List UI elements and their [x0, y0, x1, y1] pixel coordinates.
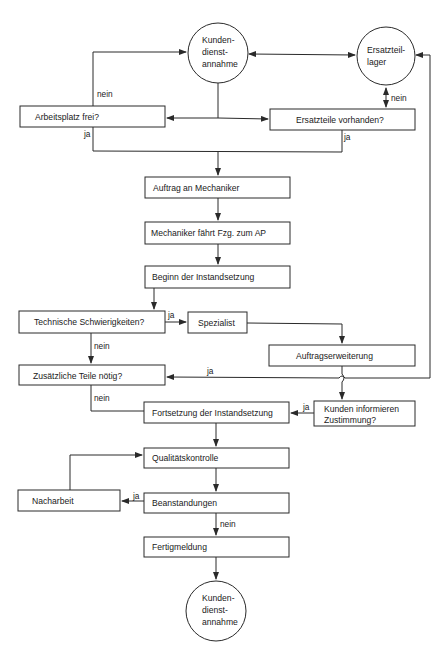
node-auftrag: Auftrag an Mechaniker — [145, 177, 290, 198]
edge-to-ersatzteile — [218, 118, 268, 119]
node-fertig: Fertigmeldung — [144, 537, 289, 557]
label-arbeitsplatz-ja: ja — [83, 129, 91, 139]
node-qualitaet: Qualitätskontrolle — [144, 448, 289, 468]
node-zusaetzlich: Zusätzliche Teile nötig? — [19, 365, 165, 385]
start-line-3: annahme — [202, 59, 238, 69]
ersatzteile-label: Ersatzteile vorhanden? — [296, 115, 384, 125]
technisch-label: Technische Schwierigkeiten? — [34, 317, 145, 327]
node-spezialist: Spezialist — [188, 312, 247, 333]
label-arbeitsplatz-nein: nein — [97, 89, 113, 99]
node-fortsetzung: Fortsetzung der Instandsetzung — [144, 402, 289, 423]
label-kunden-ja: ja — [302, 402, 310, 412]
edge-spezialist-erweiterung — [247, 323, 342, 343]
node-start: Kunden- dienst- annahme — [188, 23, 248, 83]
edge-ja-merge — [93, 127, 342, 152]
edge-zusaetzlich-ja — [167, 376, 430, 378]
beginn-label: Beginn der Instandsetzung — [152, 272, 254, 282]
node-mechaniker: Mechaniker fährt Fzg. zum AP — [145, 222, 290, 244]
node-lager: Ersatzteil- lager — [357, 27, 415, 85]
mechaniker-label: Mechaniker fährt Fzg. zum AP — [151, 228, 266, 238]
edge-return-lager — [416, 55, 430, 378]
node-beginn: Beginn der Instandsetzung — [145, 266, 290, 288]
qualitaet-label: Qualitätskontrolle — [152, 453, 219, 463]
end-line-1: Kunden- — [202, 593, 235, 603]
node-erweiterung: Auftragserweiterung — [269, 345, 415, 366]
nacharbeit-label: Nacharbeit — [32, 496, 74, 506]
node-ersatzteile: Ersatzteile vorhanden? — [270, 109, 415, 130]
node-end: Kunden- dienst- annahme — [186, 581, 246, 641]
label-zusaetzlich-ja: ja — [206, 366, 214, 376]
auftrag-label: Auftrag an Mechaniker — [153, 183, 240, 193]
label-beanstandungen-ja: ja — [132, 491, 140, 501]
end-line-3: annahme — [202, 617, 238, 627]
start-line-1: Kunden- — [202, 35, 235, 45]
node-technisch: Technische Schwierigkeiten? — [19, 311, 165, 333]
lager-line-1: Ersatzteil- — [367, 45, 405, 55]
node-arbeitsplatz: Arbeitsplatz frei? — [20, 106, 165, 127]
spezialist-label: Spezialist — [198, 318, 235, 328]
edge-nacharbeit-qualitaet — [70, 455, 142, 490]
kunden-info-line-2: Zustimmung? — [324, 415, 376, 425]
start-line-2: dienst- — [202, 47, 228, 57]
edge-erweiterung-kunden — [342, 366, 344, 399]
fortsetzung-label: Fortsetzung der Instandsetzung — [152, 408, 273, 418]
node-kunden-info: Kunden informieren Zustimmung? — [314, 401, 415, 426]
label-ersatzteile-ja: ja — [343, 132, 351, 142]
zusaetzlich-label: Zusätzliche Teile nötig? — [33, 371, 122, 381]
erweiterung-label: Auftragserweiterung — [296, 351, 373, 361]
node-nacharbeit: Nacharbeit — [18, 490, 120, 511]
arbeitsplatz-label: Arbeitsplatz frei? — [35, 112, 99, 122]
label-technisch-ja: ja — [167, 310, 175, 320]
kunden-info-line-1: Kunden informieren — [324, 404, 399, 414]
label-technisch-nein: nein — [94, 341, 110, 351]
edge-start-lager — [249, 54, 355, 55]
flowchart: Kunden- dienst- annahme Ersatzteil- lage… — [0, 0, 439, 660]
label-zusaetzlich-nein: nein — [94, 393, 110, 403]
node-beanstandungen: Beanstandungen — [144, 493, 289, 513]
label-beanstandungen-nein: nein — [220, 519, 236, 529]
beanstandungen-label: Beanstandungen — [152, 498, 217, 508]
label-lager-nein: nein — [391, 93, 407, 103]
fertig-label: Fertigmeldung — [152, 542, 207, 552]
lager-line-2: lager — [367, 57, 386, 67]
end-line-2: dienst- — [202, 605, 228, 615]
